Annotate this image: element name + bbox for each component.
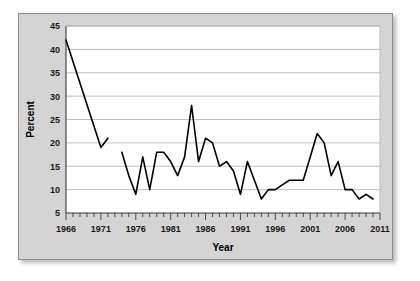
x-tick-label: 1976 xyxy=(126,224,146,234)
x-tick-label: 1996 xyxy=(265,224,285,234)
y-axis-tick-labels: 51015202530354045 xyxy=(50,21,60,218)
x-tick-label: 2011 xyxy=(370,224,390,234)
x-tick-label: 1971 xyxy=(91,224,111,234)
y-tick-label: 40 xyxy=(50,45,60,55)
x-tick-label: 2006 xyxy=(335,224,355,234)
x-tick-label: 1986 xyxy=(196,224,216,234)
y-tick-label: 5 xyxy=(55,208,60,218)
x-axis-tickmarks xyxy=(66,213,380,220)
x-tick-label: 1991 xyxy=(230,224,250,234)
x-axis-title: Year xyxy=(212,242,233,253)
y-tick-label: 45 xyxy=(50,21,60,31)
x-tick-label: 1966 xyxy=(56,224,76,234)
y-tick-label: 30 xyxy=(50,92,60,102)
y-tick-label: 20 xyxy=(50,138,60,148)
line-chart: 51015202530354045 1966197119761981198619… xyxy=(19,14,392,259)
x-tick-label: 1981 xyxy=(161,224,181,234)
y-tick-label: 25 xyxy=(50,115,60,125)
y-axis-title: Percent xyxy=(25,100,36,137)
x-tick-label: 2001 xyxy=(300,224,320,234)
x-axis-tick-labels: 1966197119761981198619911996200120062011 xyxy=(56,224,390,234)
chart-figure-panel: 51015202530354045 1966197119761981198619… xyxy=(18,13,393,260)
chart-plot-wrapper: 51015202530354045 1966197119761981198619… xyxy=(19,14,392,259)
y-tick-label: 15 xyxy=(50,162,60,172)
y-tick-label: 35 xyxy=(50,68,60,78)
y-tick-label: 10 xyxy=(50,185,60,195)
